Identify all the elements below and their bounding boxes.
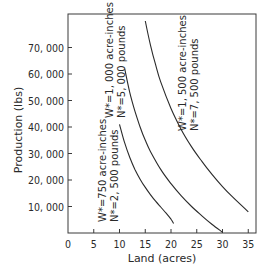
y-tick-label: 10, 000: [28, 201, 64, 213]
x-tick-label: 20: [165, 238, 177, 250]
annotation-series-3-line2: N*=7, 500 pounds: [189, 38, 200, 131]
annotation-series-1: W*=750 acre-inches N*=2, 500 pounds: [97, 119, 120, 222]
y-tick-label: 20, 000: [28, 174, 64, 186]
x-tick-label: 5: [91, 238, 97, 250]
x-tick-label: 10: [113, 238, 125, 250]
annotation-series-1-line2: N*=2, 500 pounds: [109, 129, 120, 222]
chart: 05101520253035 10, 00020, 00030, 00040, …: [0, 0, 271, 272]
annotation-series-1-line1: W*=750 acre-inches: [97, 119, 108, 222]
x-tick-label: 30: [216, 238, 228, 250]
x-tick-label: 15: [139, 238, 151, 250]
x-axis-label: Land (acres): [128, 252, 196, 265]
annotation-series-3-line1: W*=1, 500 acre-inches: [177, 15, 188, 131]
annotation-series-2-line1: W*=1, 000 acre-inches: [104, 2, 115, 118]
x-axis-ticks: 05101520253035: [65, 229, 254, 250]
y-tick-label: 70, 000: [28, 42, 64, 54]
y-axis-label: Production (lbs): [12, 87, 25, 173]
curve-series-2: [125, 69, 223, 233]
x-tick-label: 25: [191, 238, 203, 250]
x-tick-label: 35: [242, 238, 254, 250]
annotation-series-2-line2: N*=5, 000 pounds: [116, 25, 127, 118]
annotation-series-3: W*=1, 500 acre-inches N*=7, 500 pounds: [177, 15, 200, 131]
y-tick-label: 30, 000: [28, 148, 64, 160]
y-tick-label: 40, 000: [28, 121, 64, 133]
y-tick-label: 60, 000: [28, 68, 64, 80]
y-axis-ticks: 10, 00020, 00030, 00040, 00050, 00060, 0…: [28, 42, 72, 213]
y-tick-label: 50, 000: [28, 95, 64, 107]
curve-series-1: [120, 124, 174, 223]
x-tick-label: 0: [65, 238, 71, 250]
annotation-series-2: W*=1, 000 acre-inches N*=5, 000 pounds: [104, 2, 127, 118]
